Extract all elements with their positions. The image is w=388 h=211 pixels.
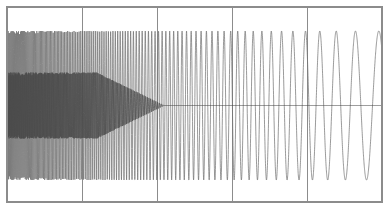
chart-figure <box>0 0 388 211</box>
plot-canvas <box>0 0 388 211</box>
